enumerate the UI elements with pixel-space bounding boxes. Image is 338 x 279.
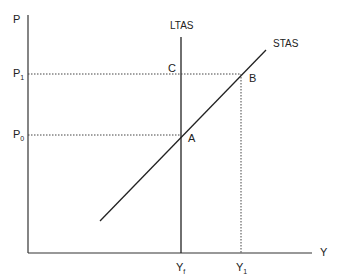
point-c-label: C bbox=[168, 63, 176, 74]
p1-label: P1 bbox=[13, 68, 24, 79]
point-b-label: B bbox=[249, 73, 256, 84]
x-axis-label: Y bbox=[320, 247, 327, 258]
yf-label: Yf bbox=[176, 262, 185, 273]
y1-label-sub: 1 bbox=[243, 268, 247, 275]
p0-label: P0 bbox=[13, 129, 24, 140]
y1-label: Y1 bbox=[236, 262, 247, 273]
stas-label: STAS bbox=[273, 39, 298, 49]
point-a-label: A bbox=[188, 133, 195, 144]
ltas-label: LTAS bbox=[170, 21, 194, 31]
p1-label-sub: 1 bbox=[20, 74, 24, 81]
p0-label-sub: 0 bbox=[20, 135, 24, 142]
y-axis-label: P bbox=[13, 14, 20, 25]
